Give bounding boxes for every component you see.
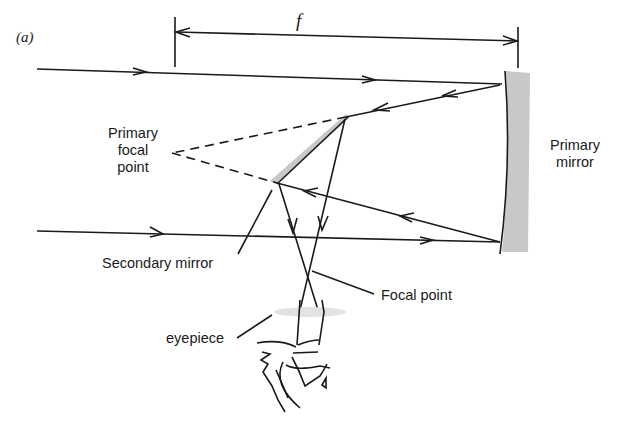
focal-length-label: f bbox=[296, 12, 301, 29]
telescope-ray-diagram bbox=[0, 0, 621, 443]
primary-focal-point-label: Primary focal point bbox=[98, 125, 168, 176]
primary-mirror-label: Primary mirror bbox=[540, 137, 610, 171]
reflected-ray-bottom bbox=[277, 183, 500, 242]
leader-eyepiece bbox=[237, 315, 272, 338]
primary-mirror bbox=[500, 71, 530, 254]
leader-secondary-mirror bbox=[238, 190, 272, 254]
reflected-ray-top bbox=[346, 85, 500, 117]
dashed-focal-lines bbox=[172, 117, 346, 183]
secondary-mirror-label: Secondary mirror bbox=[102, 255, 213, 272]
incoming-ray-top bbox=[37, 68, 502, 84]
focal-length-dimension bbox=[175, 17, 518, 68]
panel-label: (a) bbox=[16, 29, 34, 46]
eyepiece bbox=[274, 300, 346, 353]
leader-focal-point bbox=[312, 271, 374, 294]
incoming-ray-bottom bbox=[37, 227, 500, 244]
eyepiece-label: eyepiece bbox=[166, 330, 224, 347]
focal-point-label: Focal point bbox=[381, 287, 452, 304]
